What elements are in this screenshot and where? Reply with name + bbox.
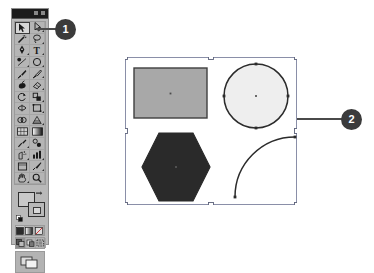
- swap-fill-stroke-icon[interactable]: [35, 190, 43, 198]
- tool-free-transform-tool[interactable]: [30, 103, 45, 115]
- flyout-indicator-icon: [42, 53, 44, 55]
- tool-lasso-tool[interactable]: [30, 34, 45, 46]
- tool-ellipse-tool[interactable]: [30, 57, 45, 69]
- toolbox-collapse-icon[interactable]: [34, 11, 38, 15]
- tool-slice-tool[interactable]: [30, 161, 45, 173]
- screen-mode-icon: [20, 255, 40, 269]
- paint-mode-none[interactable]: [35, 226, 44, 235]
- draw-mode-group[interactable]: [15, 237, 45, 249]
- change-screen-mode-button[interactable]: [15, 251, 45, 273]
- tool-rotate-tool[interactable]: [15, 92, 30, 104]
- flyout-indicator-icon: [27, 53, 29, 55]
- tool-artboard-tool[interactable]: [15, 161, 30, 173]
- toolbox-divider: [14, 185, 46, 187]
- stroke-swatch[interactable]: [28, 202, 45, 217]
- stroke-swatch-inner: [33, 207, 41, 214]
- flyout-indicator-icon: [42, 123, 44, 125]
- tool-magic-wand-tool[interactable]: [15, 34, 30, 46]
- tool-paintbrush-tool[interactable]: [15, 68, 30, 80]
- artboard[interactable]: [125, 57, 297, 205]
- flyout-indicator-icon: [27, 158, 29, 160]
- tool-group-selection: T: [14, 21, 46, 185]
- circle-center-point: [255, 95, 257, 97]
- flyout-indicator-icon: [27, 65, 29, 67]
- tool-eyedropper-tool[interactable]: [15, 138, 30, 150]
- rectangle-center-point: [170, 93, 172, 95]
- arc-anchor-end[interactable]: [294, 136, 297, 139]
- tool-scale-tool[interactable]: [30, 92, 45, 104]
- draw-mode-behind[interactable]: [26, 238, 36, 248]
- tool-perspective-grid-tool[interactable]: [30, 115, 45, 127]
- flyout-indicator-icon: [42, 169, 44, 171]
- callout-2-leader-line: [297, 118, 345, 120]
- draw-mode-inside[interactable]: [36, 238, 46, 248]
- flyout-indicator-icon: [42, 158, 44, 160]
- shape-hexagon[interactable]: [142, 133, 210, 201]
- toolbox-titlebar[interactable]: [12, 9, 48, 19]
- toolbox-close-icon[interactable]: [41, 11, 45, 15]
- default-fill-stroke-icon[interactable]: [16, 215, 23, 222]
- shape-circle[interactable]: [223, 63, 290, 130]
- flyout-indicator-icon: [42, 42, 44, 44]
- tool-mesh-tool[interactable]: [15, 126, 30, 138]
- tool-width-tool[interactable]: [15, 103, 30, 115]
- hexagon-center-point: [175, 166, 177, 168]
- flyout-indicator-icon: [42, 111, 44, 113]
- draw-mode-normal[interactable]: [16, 238, 26, 248]
- tool-blob-brush-tool[interactable]: [15, 80, 30, 92]
- flyout-indicator-icon: [27, 181, 29, 183]
- flyout-indicator-icon: [42, 76, 44, 78]
- tool-symbol-sprayer-tool[interactable]: [15, 150, 30, 162]
- flyout-indicator-icon: [27, 146, 29, 148]
- shape-arc[interactable]: [234, 136, 297, 199]
- paint-mode-group[interactable]: [15, 225, 45, 236]
- paint-mode-gradient[interactable]: [25, 226, 34, 235]
- tool-hand-tool[interactable]: [15, 173, 30, 185]
- artboard-canvas[interactable]: [125, 57, 297, 205]
- flyout-indicator-icon: [42, 100, 44, 102]
- svg-text:T: T: [33, 46, 40, 55]
- flyout-indicator-icon: [42, 65, 44, 67]
- tool-shape-builder-tool[interactable]: [15, 115, 30, 127]
- toolbox-body: T: [12, 19, 48, 273]
- tool-line-segment-tool[interactable]: [15, 57, 30, 69]
- callout-2: 2: [341, 109, 362, 130]
- tool-pencil-tool[interactable]: [30, 68, 45, 80]
- tool-column-graph-tool[interactable]: [30, 150, 45, 162]
- tool-eraser-tool[interactable]: [30, 80, 45, 92]
- toolbox-panel[interactable]: T: [11, 8, 49, 245]
- shape-rectangle[interactable]: [134, 68, 207, 118]
- tool-pen-tool[interactable]: [15, 45, 30, 57]
- arc-anchor-start[interactable]: [234, 196, 237, 199]
- callout-1: 1: [55, 19, 76, 40]
- color-controls[interactable]: [15, 189, 45, 223]
- tool-zoom-tool[interactable]: [30, 173, 45, 185]
- flyout-indicator-icon: [42, 88, 44, 90]
- tool-gradient-tool[interactable]: [30, 126, 45, 138]
- tool-blend-tool[interactable]: [30, 138, 45, 150]
- flyout-indicator-icon: [42, 30, 44, 32]
- tool-selection-tool[interactable]: [15, 22, 30, 34]
- paint-mode-color[interactable]: [16, 226, 25, 235]
- tool-type-tool[interactable]: T: [30, 45, 45, 57]
